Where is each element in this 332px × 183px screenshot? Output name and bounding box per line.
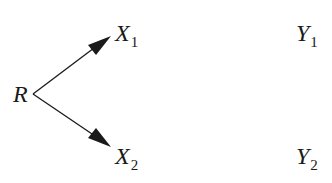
- edge-r-to-x1: [33, 36, 111, 94]
- node-label: Y: [296, 143, 309, 169]
- node-label: Y: [296, 20, 309, 46]
- arrowhead-icon: [88, 36, 111, 55]
- node-subscript: 1: [310, 34, 318, 50]
- arrowhead-icon: [88, 128, 111, 147]
- node-r: R: [13, 82, 28, 106]
- edge-r-to-x2: [33, 94, 111, 147]
- node-label: R: [13, 81, 28, 107]
- node-subscript: 2: [131, 157, 139, 173]
- node-x1: X1: [115, 21, 138, 45]
- edge-line: [33, 45, 98, 94]
- node-y1: Y1: [296, 21, 318, 45]
- node-subscript: 2: [310, 157, 318, 173]
- node-label: X: [115, 143, 130, 169]
- diagram-canvas: R X1 X2 Y1 Y2: [0, 0, 332, 183]
- node-subscript: 1: [131, 34, 139, 50]
- node-label: X: [115, 20, 130, 46]
- node-y2: Y2: [296, 144, 318, 168]
- edge-line: [33, 94, 98, 138]
- edges-layer: [0, 0, 332, 183]
- node-x2: X2: [115, 144, 138, 168]
